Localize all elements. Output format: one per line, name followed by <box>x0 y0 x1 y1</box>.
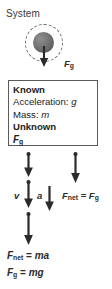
unknown-heading: Unknown <box>13 121 97 133</box>
known-item-mass: Mass: m <box>13 109 97 121</box>
known-item-acceleration: Acceleration: g <box>13 96 97 108</box>
known-item-mass-label: Mass: <box>13 109 39 120</box>
equation-net-force: Fnet = ma <box>7 250 49 261</box>
equation-gravity-force: Fg = mg <box>7 267 44 278</box>
velocity-arrow-1-icon <box>23 152 35 178</box>
velocity-label: v <box>14 190 19 201</box>
acceleration-label: a <box>37 190 42 201</box>
equation-gravity-force-lhs-sub: g <box>13 271 17 278</box>
equation-net-force-operator: = <box>26 250 32 261</box>
physics-problem-diagram: System Fg Known Acceleration: g Mass: m … <box>0 0 112 289</box>
unknown-symbol: Fg <box>13 134 97 149</box>
gravity-force-arrow-icon <box>39 46 51 68</box>
equation-net-force-lhs-sub: net <box>13 254 23 261</box>
known-unknown-box: Known Acceleration: g Mass: m Unknown Fg <box>8 80 98 146</box>
equation-gravity-force-operator: = <box>20 267 26 278</box>
velocity-arrow-2-icon <box>23 180 35 209</box>
equation-gravity-force-rhs: mg <box>29 267 44 278</box>
net-force-relation-rhs-sub: g <box>95 194 99 201</box>
system-label: System <box>6 8 40 19</box>
known-heading: Known <box>13 84 97 96</box>
acceleration-arrow-icon <box>44 186 56 212</box>
known-item-mass-symbol: m <box>41 109 49 120</box>
velocity-arrow-3-icon <box>23 212 35 246</box>
gravity-force-label: Fg <box>64 58 74 69</box>
acceleration-label-text: a <box>37 190 42 201</box>
known-item-acceleration-symbol: g <box>71 96 76 107</box>
unknown-symbol-sub: g <box>19 138 23 145</box>
velocity-label-text: v <box>14 190 19 201</box>
net-force-relation-lhs-sub: net <box>68 194 78 201</box>
net-force-relation-operator: = <box>81 190 87 201</box>
equation-net-force-rhs: ma <box>35 250 49 261</box>
known-item-acceleration-label: Acceleration: <box>13 96 68 107</box>
gravity-force-label-sub: g <box>70 62 74 69</box>
net-force-arrow-icon <box>70 152 82 184</box>
net-force-relation: Fnet = Fg <box>62 190 99 201</box>
